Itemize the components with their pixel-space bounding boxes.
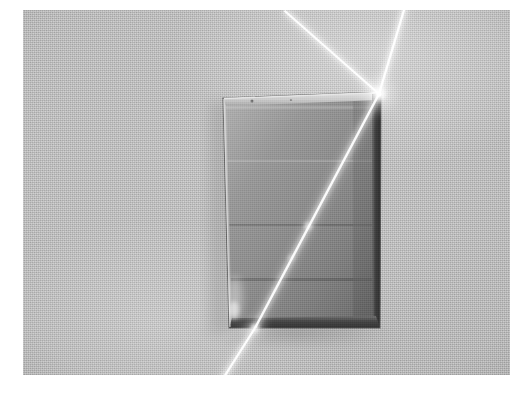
beam-entry-hotspot [363, 78, 395, 110]
beam-exit-hotspot [246, 319, 264, 337]
optics-photograph [23, 10, 510, 375]
glass-edge-speck [251, 100, 254, 103]
optics-scene [23, 10, 510, 375]
glass-edge-speck [290, 99, 292, 101]
internal-reflection-glow [228, 276, 242, 320]
reflected-beam [285, 11, 381, 96]
screenshot-root [0, 0, 527, 402]
